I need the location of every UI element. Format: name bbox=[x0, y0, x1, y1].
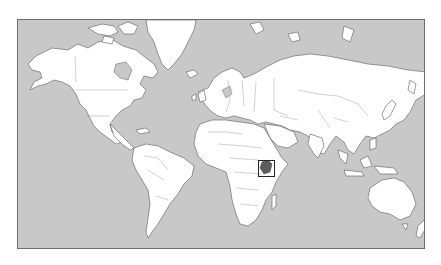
greenland bbox=[146, 20, 196, 70]
iceland bbox=[186, 70, 198, 78]
north-america bbox=[28, 22, 158, 150]
south-america bbox=[132, 144, 194, 238]
world-map bbox=[18, 20, 425, 249]
world-map-frame: Kenya bbox=[17, 19, 425, 249]
kenya-locator-box bbox=[258, 160, 275, 177]
new-zealand bbox=[416, 220, 425, 238]
australia bbox=[368, 178, 416, 230]
